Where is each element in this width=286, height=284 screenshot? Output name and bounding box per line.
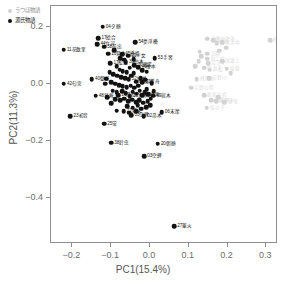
data-point	[68, 114, 73, 119]
data-point	[207, 67, 212, 72]
data-point	[214, 99, 219, 104]
data-point-label: 53手習	[158, 56, 173, 61]
data-point	[102, 121, 107, 126]
data-point	[214, 41, 219, 46]
x-tick-mark	[71, 243, 72, 247]
data-point	[159, 110, 164, 115]
data-point	[104, 76, 109, 81]
data-point	[216, 95, 221, 100]
data-point	[131, 71, 136, 76]
data-point	[228, 71, 233, 76]
data-point	[189, 86, 194, 91]
data-point-label: 23初音	[74, 114, 89, 119]
data-point	[202, 66, 207, 71]
data-point	[155, 141, 160, 146]
data-point	[148, 103, 153, 108]
data-point-label: 03空蝉	[147, 154, 162, 159]
data-point	[141, 114, 146, 119]
data-point	[113, 97, 118, 102]
data-point	[207, 76, 212, 81]
plot-area: 内侍のかみ楼の上上楼の上中吹上上蔵開正頥吹上中泣き子国譲上吹上下浜松俊蔭蔵開上吉…	[50, 5, 277, 243]
data-point-label: 42匂宮	[67, 82, 82, 87]
data-point	[106, 51, 111, 56]
data-point	[148, 96, 153, 101]
data-point-label: 49宿木	[156, 93, 171, 98]
x-tick-label: −0.2	[62, 250, 80, 260]
y-tick-mark	[46, 197, 50, 198]
data-point	[205, 36, 210, 41]
data-point-label: 松の下	[210, 105, 225, 110]
data-point-label: 20朝顔	[161, 141, 176, 146]
data-point	[134, 109, 139, 114]
data-point	[122, 58, 127, 63]
data-point	[172, 224, 177, 229]
x-axis-title: PC1(15.4%)	[0, 264, 286, 275]
data-point-label: 54夢浮橋	[138, 40, 158, 45]
data-point	[112, 48, 117, 53]
data-point-label: 11花散里	[67, 47, 86, 52]
data-point	[123, 76, 128, 81]
data-point	[95, 42, 100, 47]
chart-canvas: 内侍のかみ楼の上上楼の上中吹上上蔵開正頥吹上中泣き子国譲上吹上下浜松俊蔭蔵開上吉…	[0, 0, 286, 284]
data-point	[107, 70, 112, 75]
x-tick-label: 0.1	[181, 250, 194, 260]
data-point	[133, 40, 138, 45]
data-point	[126, 54, 131, 59]
data-point-label: 06末摩	[165, 110, 180, 115]
data-point	[204, 105, 209, 110]
data-point	[136, 83, 141, 88]
data-point	[149, 81, 154, 86]
data-point	[152, 56, 157, 61]
data-point	[194, 77, 199, 82]
data-point	[127, 66, 132, 71]
x-tick-mark	[265, 243, 266, 247]
data-point	[268, 38, 273, 43]
data-point-label: 蔵開	[273, 38, 277, 43]
data-point-label: 02帚木	[147, 114, 162, 119]
data-point-label: 国譲上	[225, 59, 240, 64]
y-tick-mark	[46, 140, 50, 141]
x-tick-mark	[227, 243, 228, 247]
legend-marker-utsuho-icon	[8, 9, 12, 13]
data-point	[142, 154, 147, 159]
data-point	[93, 93, 98, 98]
data-point	[105, 95, 110, 100]
data-point	[100, 24, 105, 29]
data-point	[145, 70, 150, 75]
data-point	[197, 59, 202, 64]
x-tick-label: 0.0	[143, 250, 156, 260]
x-tick-mark	[110, 243, 111, 247]
data-point	[127, 111, 132, 116]
legend-item-utsuho: うつほ物語	[8, 7, 40, 15]
data-point	[114, 90, 119, 95]
data-point	[109, 101, 114, 106]
data-point-label: 継母	[228, 100, 238, 105]
data-point	[152, 89, 157, 94]
x-tick-label: 0.2	[220, 250, 233, 260]
x-tick-mark	[188, 243, 189, 247]
data-point	[62, 47, 67, 52]
data-point	[121, 109, 126, 114]
data-point	[109, 141, 114, 146]
y-tick-label: −0.2	[10, 135, 43, 145]
data-point	[114, 108, 119, 113]
y-tick-mark	[46, 83, 50, 84]
data-point-label: 25蛍	[107, 121, 117, 126]
data-point	[131, 57, 136, 62]
x-tick-label: 0.3	[259, 250, 272, 260]
data-point-label: 浜松	[213, 67, 223, 72]
y-tick-label: 0.0	[10, 78, 43, 88]
data-point	[143, 78, 148, 83]
data-point	[202, 93, 207, 98]
data-point	[124, 91, 129, 96]
data-point-label: 04夕顔	[106, 24, 121, 29]
data-point	[96, 36, 101, 41]
x-tick-mark	[149, 243, 150, 247]
x-tick-label: −0.1	[101, 250, 119, 260]
data-point	[224, 46, 229, 51]
legend-label-utsuho: うつほ物語	[15, 8, 40, 13]
data-point	[89, 77, 94, 82]
data-point-label: 38鈴虫	[114, 141, 129, 146]
data-point	[220, 40, 225, 45]
y-tick-mark	[46, 26, 50, 27]
